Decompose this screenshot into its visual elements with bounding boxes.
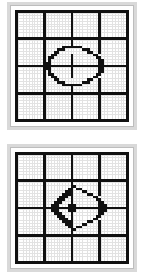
pixel-grid-canvas-diamond-motif [15, 152, 129, 264]
pixel-grid-canvas-circle-motif [15, 10, 129, 122]
panel-two-inner [10, 147, 134, 269]
figure-sheet [0, 0, 163, 280]
panel-one-inner [10, 5, 134, 127]
figure-panel-two [7, 144, 137, 272]
figure-panel-one [7, 2, 137, 130]
